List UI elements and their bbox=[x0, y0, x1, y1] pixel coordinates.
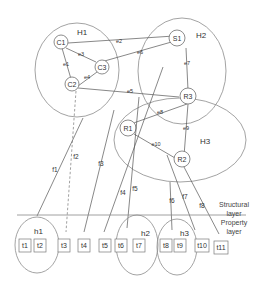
link-f3 bbox=[84, 110, 114, 232]
property-label: t6 bbox=[118, 242, 124, 249]
link-label: f7 bbox=[182, 193, 188, 200]
node-label: S1 bbox=[173, 35, 182, 42]
link-label: f6 bbox=[169, 197, 175, 204]
property-label: t3 bbox=[61, 242, 67, 249]
structural-layer-label: Structural bbox=[219, 201, 249, 208]
link-label: f2 bbox=[73, 153, 79, 160]
property-label: t9 bbox=[177, 242, 183, 249]
link-f4 bbox=[104, 67, 163, 232]
property-label: t2 bbox=[37, 242, 43, 249]
edge-e7 bbox=[186, 48, 188, 90]
diagram-canvas: C1 C2 C3 S1 R1 R2 R3 H1 H2 H3 e1 e2 e3 e… bbox=[0, 0, 256, 285]
edge-label: e5 bbox=[127, 88, 133, 94]
property-layer-label: layer bbox=[226, 228, 242, 236]
node-label: C3 bbox=[98, 64, 107, 71]
property-label: t8 bbox=[163, 242, 169, 249]
edge-label: e7 bbox=[184, 60, 190, 66]
edge-label: e10 bbox=[151, 141, 160, 147]
property-label: t1 bbox=[22, 242, 28, 249]
link-label: f5 bbox=[132, 185, 138, 192]
edge-label: e4 bbox=[84, 74, 90, 80]
group-label: H3 bbox=[200, 137, 211, 146]
node-label: C2 bbox=[68, 81, 77, 88]
link-f2 bbox=[66, 91, 76, 232]
node-label: R3 bbox=[184, 93, 193, 100]
property-label: t10 bbox=[197, 242, 207, 249]
group-label: h2 bbox=[141, 229, 150, 238]
link-label: f3 bbox=[98, 160, 104, 167]
edge-label: e9 bbox=[183, 125, 189, 131]
link-label: f1 bbox=[52, 166, 58, 173]
link-label: f8 bbox=[199, 202, 205, 209]
edge-label: e3 bbox=[78, 51, 84, 57]
property-label: t7 bbox=[136, 242, 142, 249]
edge-label: e2 bbox=[116, 38, 122, 44]
group-label: h1 bbox=[34, 227, 43, 236]
property-label: t11 bbox=[216, 244, 225, 251]
group-H3 bbox=[114, 98, 246, 182]
group-label: h3 bbox=[180, 229, 189, 238]
link-f1 bbox=[37, 118, 83, 216]
group-label: H2 bbox=[196, 31, 207, 40]
link-label: f4 bbox=[120, 189, 126, 196]
structural-layer-label: layer bbox=[226, 210, 242, 218]
link-f8 bbox=[184, 167, 219, 234]
property-layer-label: Property bbox=[221, 219, 248, 227]
property-label: t4 bbox=[81, 242, 87, 249]
link-f6 bbox=[170, 182, 172, 230]
group-label: H1 bbox=[77, 28, 88, 37]
edge-label: e1 bbox=[63, 61, 69, 67]
property-label: t5 bbox=[102, 242, 108, 249]
edge-label: e8 bbox=[157, 109, 163, 115]
node-label: R1 bbox=[124, 125, 133, 132]
node-label: R2 bbox=[178, 156, 187, 163]
edge-label: e6 bbox=[137, 49, 143, 55]
node-label: C1 bbox=[57, 39, 66, 46]
